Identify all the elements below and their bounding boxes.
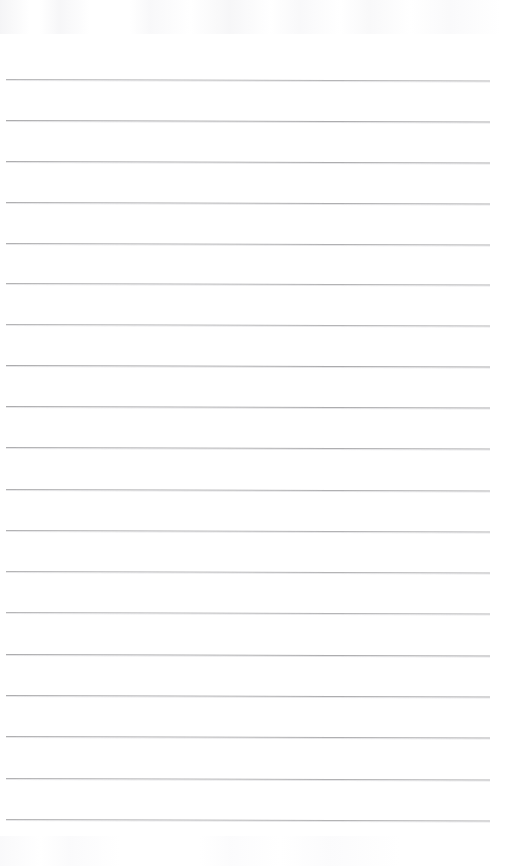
notebook-page bbox=[0, 0, 524, 866]
ruled-line bbox=[6, 161, 490, 164]
ruled-line bbox=[6, 819, 490, 822]
scan-noise-bottom-band bbox=[0, 836, 524, 866]
ruled-line bbox=[6, 778, 490, 781]
ruled-line bbox=[6, 324, 490, 327]
ruled-line bbox=[6, 612, 490, 615]
scan-noise-top-band bbox=[0, 0, 524, 34]
ruled-line bbox=[6, 202, 490, 205]
ruled-line bbox=[6, 695, 490, 698]
ruled-line bbox=[6, 447, 490, 450]
ruled-line bbox=[6, 530, 490, 533]
ruled-line bbox=[6, 365, 490, 368]
ruled-line bbox=[6, 120, 490, 123]
ruled-line bbox=[6, 243, 490, 246]
ruled-line bbox=[6, 79, 490, 82]
ruled-line bbox=[6, 571, 490, 574]
ruled-line bbox=[6, 283, 490, 286]
ruled-line bbox=[6, 406, 490, 409]
ruled-line bbox=[6, 654, 490, 657]
ruled-line bbox=[6, 736, 490, 739]
ruled-line bbox=[6, 489, 490, 492]
